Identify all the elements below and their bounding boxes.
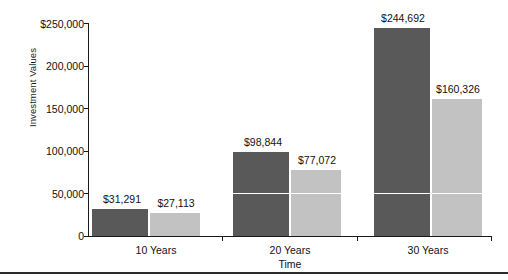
bar-10-years-series-2 — [150, 213, 200, 236]
y-tick-label-0: 0 — [12, 231, 84, 241]
y-tick-mark-150000 — [84, 108, 89, 109]
y-axis-tick-labels: $250,000 200,000 150,000 100,000 50,000 … — [8, 0, 84, 280]
y-tick-mark-250000 — [84, 23, 89, 24]
bar-30-years-series-1 — [374, 28, 430, 236]
x-axis-line — [88, 236, 492, 237]
x-tick-mark-1 — [222, 236, 223, 241]
x-axis-title: Time — [88, 258, 492, 270]
y-tick-label-200000: 200,000 — [12, 61, 84, 71]
y-tick-mark-200000 — [84, 66, 89, 67]
value-label-30-years-series-1: $244,692 — [360, 13, 446, 24]
bar-10-years-series-1 — [92, 209, 148, 236]
x-category-label-30-years: 30 Years — [378, 245, 478, 256]
footer-divider — [0, 272, 508, 274]
value-label-10-years-series-2: $27,113 — [138, 198, 214, 209]
x-tick-mark-2 — [357, 236, 358, 241]
y-tick-label-50000: 50,000 — [12, 189, 84, 199]
x-category-label-20-years: 20 Years — [240, 245, 340, 256]
y-tick-label-150000: 150,000 — [12, 104, 84, 114]
plot-area: $31,291 $27,113 $98,844 $77,072 $244,692… — [88, 23, 492, 236]
value-label-20-years-series-1: $98,844 — [223, 137, 303, 148]
y-tick-label-250000: $250,000 — [12, 19, 84, 29]
value-label-20-years-series-2: $77,072 — [279, 155, 355, 166]
x-tick-mark-3 — [491, 236, 492, 241]
bar-20-years-series-2 — [291, 170, 341, 236]
bar-30-years-series-2 — [432, 99, 482, 236]
y-tick-label-100000: 100,000 — [12, 146, 84, 156]
y-tick-mark-100000 — [84, 151, 89, 152]
y-tick-mark-0 — [84, 236, 89, 237]
value-label-30-years-series-2: $160,326 — [418, 84, 498, 95]
x-category-label-10-years: 10 Years — [106, 245, 206, 256]
bar-chart: Investment Values $250,000 200,000 150,0… — [0, 0, 508, 280]
